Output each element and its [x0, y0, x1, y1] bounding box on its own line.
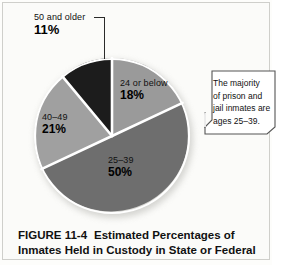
label-50-and-older: 50 and older 11%	[34, 12, 85, 38]
leader-line-vertical	[104, 17, 105, 59]
callout-line-1: The majority	[213, 77, 275, 90]
label-40-49-percent: 21%	[42, 123, 68, 137]
label-40-49-category: 40–49	[42, 112, 68, 122]
figure-title: Estimated Percentages of	[94, 229, 235, 241]
label-50-and-older-percent: 11%	[34, 23, 85, 38]
figure-title-line2: Inmates Held in Custody in State or Fede…	[18, 243, 266, 258]
label-40-49: 40–49 21%	[42, 112, 68, 137]
callout-text: The majority of prison and jail inmates …	[213, 77, 275, 127]
label-25-39-category: 25–39	[108, 155, 134, 165]
label-25-39-percent: 50%	[108, 166, 134, 180]
figure-number: FIGURE 11-4	[18, 229, 87, 241]
figure-caption: FIGURE 11-4Estimated Percentages of Inma…	[18, 228, 266, 258]
callout-line-2: of prison and	[213, 90, 275, 103]
label-under-24: 24 or below 18%	[120, 78, 168, 103]
callout-line-4: ages 25–39.	[213, 115, 275, 128]
label-25-39: 25–39 50%	[108, 155, 134, 180]
figure-page: 24 or below 18% 25–39 50% 40–49 21% 50 a…	[0, 0, 285, 265]
callout-box: The majority of prison and jail inmates …	[204, 70, 276, 135]
callout-line-3: jail inmates are	[213, 102, 275, 115]
label-under-24-category: 24 or below	[120, 78, 168, 88]
label-under-24-percent: 18%	[120, 89, 168, 103]
label-50-and-older-category: 50 and older	[34, 12, 85, 22]
